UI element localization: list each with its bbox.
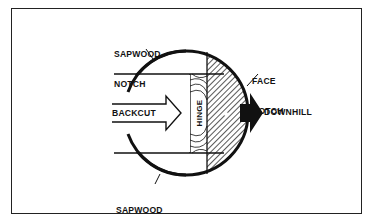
label-line: SAPWOOD xyxy=(114,49,161,59)
sapwood-notch-bottom-label: SAPWOOD NOTCH xyxy=(116,185,163,221)
hinge-label: HINGE xyxy=(194,99,203,128)
label-line: SAPWOOD xyxy=(116,205,163,215)
hinge-label-container: HINGE xyxy=(190,96,207,130)
backcut-label: BACKCUT xyxy=(112,108,156,118)
downhill-label: DOWNHILL xyxy=(264,107,312,117)
sapwood-notch-top-label: SAPWOOD NOTCH xyxy=(114,29,161,99)
label-line: NOTCH xyxy=(114,79,161,89)
label-line: FACE xyxy=(252,76,284,86)
